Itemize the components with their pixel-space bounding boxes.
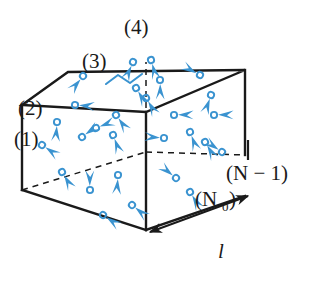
label-length-l: l: [218, 239, 224, 263]
label-level-1: (1): [14, 127, 39, 151]
label-level-n0-subscript: 0: [222, 199, 229, 214]
label-level-3: (3): [82, 49, 107, 73]
label-level-2: (2): [18, 96, 43, 120]
label-level-n-minus-1: (N − 1): [226, 161, 288, 185]
label-level-n0-open: (N: [195, 187, 217, 211]
label-level-n0-close: ): [229, 187, 236, 211]
figure-svg: (1) (2) (3) (4) (N 0 ) (N − 1) l: [0, 0, 311, 281]
label-level-n0: (N 0 ): [195, 187, 236, 214]
label-level-4: (4): [124, 15, 149, 39]
figure-background: [0, 0, 311, 281]
gas-box-figure: (1) (2) (3) (4) (N 0 ) (N − 1) l: [0, 0, 311, 281]
